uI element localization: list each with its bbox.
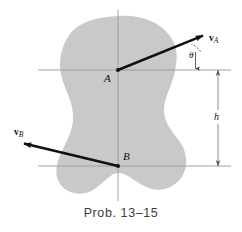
angle-label-theta: θ bbox=[189, 51, 193, 60]
vector-label-vB: vB bbox=[14, 128, 23, 139]
point-label-B: B bbox=[123, 151, 130, 162]
point-label-A: A bbox=[104, 73, 111, 84]
vector-label-vA: vA bbox=[209, 34, 218, 45]
dimension-label-h: h bbox=[214, 112, 219, 122]
rigid-body-blob bbox=[56, 16, 186, 194]
vector-label-vB-subscript: B bbox=[19, 130, 24, 139]
vector-label-vA-subscript: A bbox=[214, 36, 219, 45]
figure-svg bbox=[0, 0, 242, 232]
figure-container: A B vA vB θ h Prob. 13–15 bbox=[0, 0, 242, 232]
figure-caption: Prob. 13–15 bbox=[0, 206, 242, 220]
point-B-dot bbox=[116, 164, 120, 168]
point-A-dot bbox=[116, 68, 120, 72]
